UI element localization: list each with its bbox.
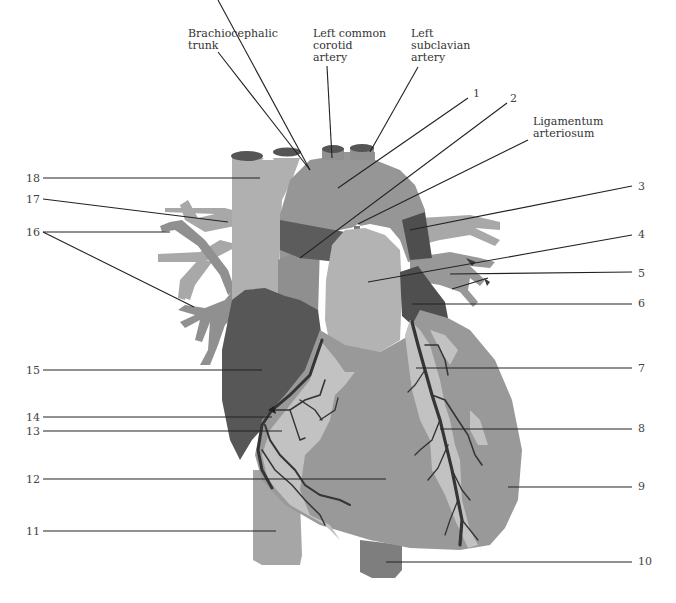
label-18: 18 (26, 172, 40, 185)
label-14: 14 (26, 411, 40, 424)
label-2: 2 (510, 92, 517, 105)
label-12: 12 (26, 473, 40, 486)
label-brachiocephalic-trunk: Brachiocephalic trunk (188, 27, 278, 52)
label-8: 8 (638, 422, 645, 435)
descending-aorta (360, 540, 402, 578)
svg-text:artery: artery (411, 51, 446, 64)
label-4: 4 (638, 228, 645, 241)
label-5: 5 (638, 267, 645, 280)
svg-text:trunk: trunk (188, 39, 219, 52)
label-10: 10 (638, 555, 652, 568)
label-13: 13 (26, 425, 40, 438)
label-15: 15 (26, 364, 40, 377)
label-left-subclavian-artery: Left subclavian artery (411, 27, 470, 64)
label-1: 1 (473, 87, 480, 100)
label-11: 11 (26, 525, 40, 538)
label-left-common-carotid-artery: Left common corotid artery (313, 27, 386, 64)
label-9: 9 (638, 480, 645, 493)
svg-text:arteriosum: arteriosum (533, 127, 595, 140)
label-17: 17 (26, 193, 40, 206)
label-3: 3 (638, 180, 645, 193)
label-16: 16 (26, 226, 40, 239)
heart-diagram: Brachiocephalic trunk Left common coroti… (0, 0, 676, 603)
pulmonary-trunk (325, 228, 402, 352)
label-ligamentum-arteriosum: Ligamentum arteriosum (533, 115, 604, 140)
label-7: 7 (638, 362, 645, 375)
svg-text:artery: artery (313, 51, 348, 64)
label-6: 6 (638, 297, 645, 310)
